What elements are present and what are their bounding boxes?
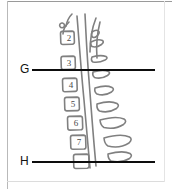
label-g: G bbox=[20, 63, 29, 75]
spinous-process-c6 bbox=[97, 102, 118, 112]
spinous-process-c4 bbox=[93, 70, 110, 78]
spinous-process-c7 bbox=[100, 117, 126, 128]
vertebra-number-c2: 2 bbox=[64, 34, 74, 43]
leader-line-g bbox=[32, 69, 155, 71]
spinous-process-c5 bbox=[95, 86, 114, 95]
anterior-upper-curve bbox=[66, 14, 72, 26]
vertebra-number-c3: 3 bbox=[64, 59, 74, 68]
figure-canvas: 2 3 4 5 6 7 G H bbox=[0, 0, 172, 189]
spinous-process-t1 bbox=[104, 135, 131, 147]
vertebra-number-c7: 7 bbox=[74, 138, 84, 147]
c1-marker-icon bbox=[60, 23, 65, 28]
label-h: H bbox=[20, 155, 29, 167]
vertebra-number-c6: 6 bbox=[71, 119, 81, 128]
leader-line-h bbox=[32, 161, 155, 163]
vertebra-number-c5: 5 bbox=[68, 100, 78, 109]
spinous-process-c3 bbox=[91, 56, 107, 63]
vertebra-number-c4: 4 bbox=[66, 81, 76, 90]
